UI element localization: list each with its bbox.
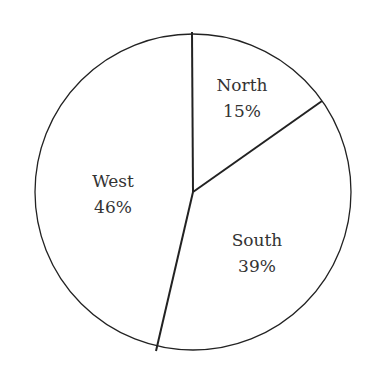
slice-north-value: 15% <box>223 101 261 121</box>
slice-north-label: North <box>216 75 267 95</box>
slice-west-label: West <box>92 171 134 191</box>
slice-south-value: 39% <box>238 256 276 276</box>
slice-west-value: 46% <box>94 197 132 217</box>
slice-south-label: South <box>232 230 283 250</box>
divider-west-north <box>192 32 193 192</box>
pie-chart: North 15% South 39% West 46% <box>0 0 373 384</box>
